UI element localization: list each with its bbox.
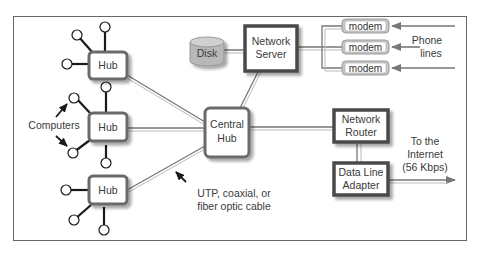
- data-line-adapter-label-line1: Data Line: [339, 166, 384, 178]
- modem-1-label: modem: [349, 21, 382, 32]
- internet-label-line3: (56 Kbps): [402, 161, 448, 173]
- computer-node-icon: [101, 82, 111, 92]
- central-hub-label-line2: Hub: [217, 132, 236, 144]
- internet-label-line2: Internet: [407, 148, 443, 160]
- computer-node-icon: [68, 148, 78, 158]
- modem-3: modem: [342, 61, 389, 75]
- cable-label-line2: fiber optic cable: [197, 200, 271, 212]
- modem-1: modem: [342, 19, 389, 33]
- network-diagram: Hub Hub Hub Central Hub Disk Network Ser…: [0, 0, 477, 253]
- computer-node-icon: [100, 22, 110, 32]
- cable-label-line1: UTP, coaxial, or: [197, 187, 271, 199]
- modem-2: modem: [342, 40, 389, 54]
- computer-node-icon: [69, 93, 79, 103]
- computer-node-icon: [61, 185, 71, 195]
- modem-3-label: modem: [349, 63, 382, 74]
- phone-lines-label-line2: lines: [420, 47, 442, 59]
- network-router-label-line1: Network: [342, 113, 381, 125]
- computer-node-icon: [69, 215, 79, 225]
- internet-arrow: [389, 180, 455, 183]
- network-server-label-line2: Server: [256, 48, 287, 60]
- cable-pointer-arrow: [176, 172, 186, 182]
- modem-2-label: modem: [349, 42, 382, 53]
- hub-bottom-label: Hub: [98, 184, 117, 196]
- computer-node-icon: [62, 59, 72, 69]
- network-server-label-line1: Network: [252, 35, 291, 47]
- hub-middle-label: Hub: [98, 121, 117, 133]
- central-hub-label-line1: Central: [210, 118, 244, 130]
- data-line-adapter-label-line2: Adapter: [343, 179, 380, 191]
- computer-node-icon: [72, 30, 82, 40]
- computer-node-icon: [101, 158, 111, 168]
- network-router-label-line2: Router: [345, 126, 377, 138]
- disk-label: Disk: [197, 47, 218, 59]
- computers-label: Computers: [28, 119, 79, 131]
- internet-label-line1: To the: [411, 135, 440, 147]
- phone-lines-label-line1: Phone: [412, 34, 443, 46]
- hub-top-label: Hub: [98, 59, 117, 71]
- computer-node-icon: [99, 225, 109, 235]
